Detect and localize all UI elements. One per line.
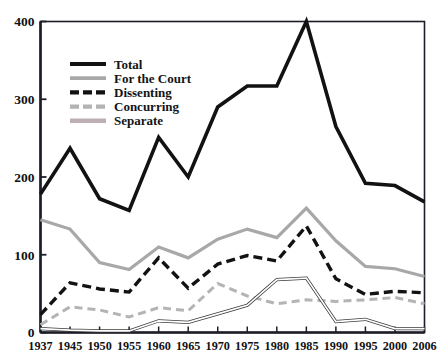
x-tick-label: 1990 xyxy=(324,339,348,353)
chart-container: 0100200300400 19371945195019551960196519… xyxy=(0,0,439,363)
legend-label: Total xyxy=(114,57,143,72)
y-tick-label: 300 xyxy=(14,92,35,107)
x-tick-label: 2000 xyxy=(383,339,407,353)
y-tick-label: 200 xyxy=(14,170,35,185)
y-tick-label: 100 xyxy=(14,248,35,263)
legend-label: Concurring xyxy=(114,99,180,114)
y-tick-label: 400 xyxy=(14,14,35,29)
x-tick-label: 1955 xyxy=(117,339,141,353)
legend-label: Dissenting xyxy=(114,85,172,100)
x-tick-label: 1995 xyxy=(353,339,377,353)
legend-label: For the Court xyxy=(114,71,192,86)
line-chart: 0100200300400 19371945195019551960196519… xyxy=(0,0,439,363)
x-tick-label: 1985 xyxy=(294,339,318,353)
x-tick-label: 1960 xyxy=(146,339,170,353)
x-tick-label: 1945 xyxy=(58,339,82,353)
x-tick-label: 1970 xyxy=(206,339,230,353)
x-tick-label: 1950 xyxy=(87,339,111,353)
legend-label: Separate xyxy=(114,113,163,128)
x-tick-label: 1965 xyxy=(176,339,200,353)
x-tick-label: 1937 xyxy=(28,339,52,353)
x-tick-label: 1980 xyxy=(265,339,289,353)
x-tick-label: 2006 xyxy=(412,339,436,353)
x-tick-label: 1975 xyxy=(235,339,259,353)
